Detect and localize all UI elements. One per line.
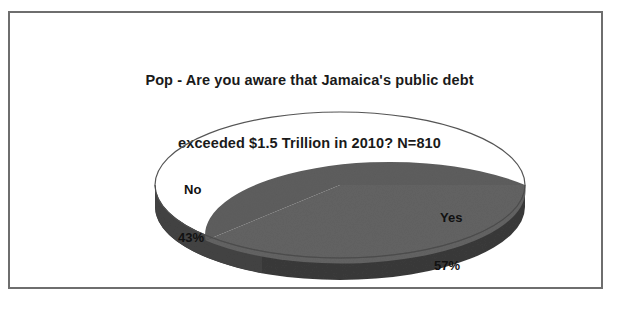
pie-plot-area: No 43% Yes 57% — [0, 0, 619, 313]
pie-chart-graphic — [0, 0, 619, 313]
pie-label-no-value: 43% — [178, 230, 204, 246]
pie-label-no: No 43% — [178, 150, 204, 278]
chart-figure: Pop - Are you aware that Jamaica's publi… — [0, 0, 619, 313]
pie-label-yes-name: Yes — [434, 210, 462, 226]
pie-label-yes-value: 57% — [434, 258, 462, 274]
pie-label-yes: Yes 57% — [434, 178, 462, 306]
pie-label-no-name: No — [178, 182, 204, 198]
